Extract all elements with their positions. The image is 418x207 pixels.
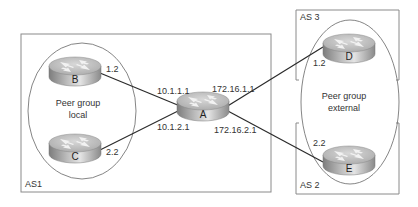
as1-boundary xyxy=(21,34,271,192)
network-diagram: B C A D E AS1 AS 3 AS 2 Peer group local… xyxy=(0,0,418,207)
addr-c: 2.2 xyxy=(106,147,119,157)
router-e-label: E xyxy=(346,163,353,174)
addr-a-to-c: 10.1.2.1 xyxy=(157,122,190,132)
link-a-e xyxy=(226,110,323,162)
as3-label: AS 3 xyxy=(300,12,320,22)
addr-a-to-d: 172.16.1.1 xyxy=(212,84,255,94)
router-c[interactable]: C xyxy=(49,134,101,163)
addr-a-to-e: 172.16.2.1 xyxy=(214,125,257,135)
router-b-label: B xyxy=(72,74,79,85)
router-a-label: A xyxy=(200,109,207,120)
router-d[interactable]: D xyxy=(323,34,375,63)
addr-b: 1.2 xyxy=(106,64,119,74)
router-a[interactable]: A xyxy=(177,92,229,121)
router-e[interactable]: E xyxy=(323,146,375,175)
link-a-d xyxy=(226,47,323,107)
addr-a-to-b: 10.1.1.1 xyxy=(157,86,190,96)
peer-group-local-line1: Peer group xyxy=(56,98,101,108)
router-b[interactable]: B xyxy=(49,57,101,86)
router-d-label: D xyxy=(345,51,352,62)
as1-label: AS1 xyxy=(25,179,42,189)
peer-group-external-line2: external xyxy=(328,103,360,113)
addr-e: 2.2 xyxy=(313,138,326,148)
addr-d: 1.2 xyxy=(313,58,326,68)
peer-group-external-line1: Peer group xyxy=(322,91,367,101)
router-c-label: C xyxy=(71,151,78,162)
as2-label: AS 2 xyxy=(300,180,320,190)
peer-group-local-line2: local xyxy=(69,110,88,120)
